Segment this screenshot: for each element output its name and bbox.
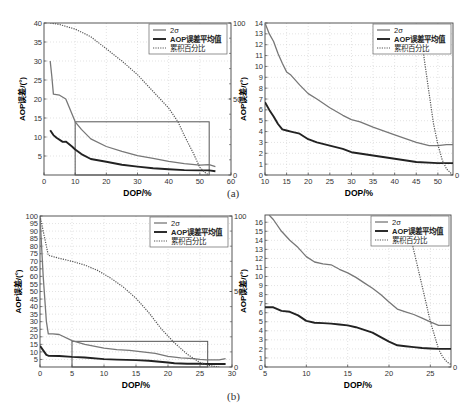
- svg-text:16: 16: [255, 218, 263, 227]
- svg-text:5: 5: [263, 369, 267, 378]
- legend-item-1: AOP误差平均值: [171, 227, 223, 237]
- svg-text:1: 1: [259, 354, 263, 363]
- svg-text:3: 3: [259, 335, 263, 344]
- svg-text:40: 40: [164, 177, 172, 186]
- svg-text:11: 11: [255, 263, 263, 272]
- svg-text:12: 12: [255, 40, 263, 49]
- legend-item-0: 2σ: [392, 218, 401, 227]
- series-line-1: [265, 307, 451, 349]
- svg-text:15: 15: [132, 369, 140, 378]
- legend: 2σAOP误差平均值累积百分比: [150, 217, 228, 247]
- svg-text:4: 4: [259, 326, 263, 335]
- svg-text:5: 5: [259, 317, 263, 326]
- svg-text:20: 20: [385, 369, 393, 378]
- svg-text:8: 8: [259, 290, 263, 299]
- plot-b-left: 0510152025305101520253035404550556065707…: [13, 212, 247, 390]
- svg-text:9: 9: [259, 73, 263, 82]
- svg-text:7: 7: [259, 299, 263, 308]
- plot-a-right: 101520253035404550012345678910111213140D…: [238, 19, 459, 198]
- svg-text:10: 10: [34, 133, 42, 142]
- svg-text:14: 14: [255, 236, 263, 245]
- series-line-2: [421, 33, 453, 175]
- svg-text:0: 0: [38, 369, 42, 378]
- legend: 2σAOP误差平均值累积百分比: [373, 24, 451, 54]
- svg-text:0: 0: [453, 363, 457, 372]
- svg-text:2: 2: [259, 149, 263, 158]
- svg-text:6: 6: [259, 105, 263, 114]
- svg-text:25: 25: [34, 76, 42, 85]
- svg-text:0: 0: [455, 171, 459, 180]
- svg-text:15: 15: [282, 177, 290, 186]
- legend-item-2: 累积百分比: [171, 236, 207, 246]
- legend: 2σAOP误差平均值累积百分比: [149, 24, 227, 54]
- svg-text:20: 20: [164, 369, 172, 378]
- svg-text:35: 35: [34, 38, 42, 47]
- caption-a: (a): [227, 187, 239, 199]
- svg-text:100: 100: [233, 19, 246, 28]
- legend-item-0: 2σ: [171, 219, 180, 228]
- legend-item-1: AOP误差平均值: [394, 34, 446, 44]
- svg-text:25: 25: [326, 177, 334, 186]
- legend-item-2: 累积百分比: [170, 43, 206, 53]
- svg-text:2: 2: [259, 345, 263, 354]
- svg-text:20: 20: [102, 177, 110, 186]
- legend-item-1: AOP误差平均值: [392, 226, 444, 236]
- svg-text:15: 15: [34, 114, 42, 123]
- legend-item-2: 累积百分比: [394, 43, 430, 53]
- svg-text:25: 25: [196, 369, 204, 378]
- svg-text:40: 40: [390, 177, 398, 186]
- svg-text:15: 15: [255, 227, 263, 236]
- svg-text:14: 14: [255, 19, 263, 28]
- y-axis-label: AOP误差/(°): [13, 269, 23, 313]
- svg-text:11: 11: [255, 51, 263, 60]
- svg-text:15: 15: [343, 369, 351, 378]
- x-axis-label: DOP/%: [345, 188, 374, 198]
- svg-text:3: 3: [259, 138, 263, 147]
- svg-text:20: 20: [304, 177, 312, 186]
- legend-item-0: 2σ: [170, 26, 179, 35]
- svg-text:10: 10: [302, 369, 310, 378]
- svg-text:45: 45: [412, 177, 420, 186]
- svg-text:30: 30: [347, 177, 355, 186]
- legend: 2σAOP误差平均值累积百分比: [371, 216, 449, 246]
- svg-text:25: 25: [426, 369, 434, 378]
- svg-text:100: 100: [25, 212, 38, 221]
- legend-item-1: AOP误差平均值: [170, 34, 222, 44]
- svg-text:30: 30: [34, 57, 42, 66]
- svg-text:12: 12: [255, 254, 263, 263]
- svg-text:5: 5: [70, 369, 74, 378]
- y-axis-label: AOP误差/(°): [238, 77, 248, 121]
- figure-canvas: 0102030405060510152025303540050100DOP/%A…: [0, 0, 474, 410]
- svg-text:10: 10: [71, 177, 79, 186]
- svg-text:0: 0: [42, 177, 46, 186]
- svg-text:35: 35: [369, 177, 377, 186]
- x-axis-label: DOP/%: [122, 380, 151, 390]
- svg-text:30: 30: [133, 177, 141, 186]
- figure: 0102030405060510152025303540050100DOP/%A…: [0, 0, 474, 410]
- caption-b: (b): [227, 390, 240, 402]
- svg-text:0: 0: [259, 363, 263, 372]
- svg-text:6: 6: [259, 308, 263, 317]
- series-line-1: [265, 102, 453, 163]
- plot-a-left: 0102030405060510152025303540050100DOP/%A…: [17, 19, 246, 198]
- svg-text:1: 1: [259, 160, 263, 169]
- svg-text:100: 100: [234, 212, 247, 221]
- svg-text:4: 4: [259, 127, 263, 136]
- legend-item-0: 2σ: [394, 26, 403, 35]
- svg-text:50: 50: [434, 177, 442, 186]
- svg-text:13: 13: [255, 245, 263, 254]
- svg-text:7: 7: [259, 95, 263, 104]
- x-axis-label: DOP/%: [123, 188, 152, 198]
- svg-text:20: 20: [34, 95, 42, 104]
- y-axis-label: AOP误差/(°): [17, 77, 27, 121]
- svg-text:5: 5: [38, 152, 42, 161]
- svg-text:0: 0: [233, 171, 237, 180]
- svg-text:50: 50: [196, 177, 204, 186]
- svg-text:10: 10: [100, 369, 108, 378]
- y-axis-label: AOP误差/(°): [238, 269, 248, 313]
- svg-text:10: 10: [255, 272, 263, 281]
- svg-text:10: 10: [255, 62, 263, 71]
- legend-item-2: 累积百分比: [392, 235, 428, 245]
- svg-text:5: 5: [259, 116, 263, 125]
- plot-b-right: 5101520250123456789101112131415160DOP/%A…: [238, 215, 457, 390]
